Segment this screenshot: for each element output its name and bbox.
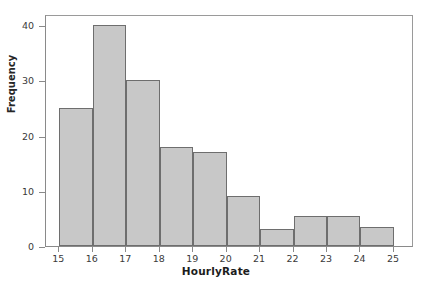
y-axis-tick-label: 0 bbox=[0, 242, 34, 252]
x-axis-tick-label: 23 bbox=[311, 253, 341, 264]
histogram-bar bbox=[160, 147, 193, 246]
x-axis-title: HourlyRate bbox=[0, 265, 432, 277]
x-axis-tick-label: 18 bbox=[144, 253, 174, 264]
x-axis-tick-label: 24 bbox=[344, 253, 374, 264]
x-axis-tick-label: 20 bbox=[211, 253, 241, 264]
histogram-bar bbox=[360, 227, 393, 246]
x-axis-tick bbox=[259, 247, 260, 252]
y-axis-tick-label: 20 bbox=[0, 132, 34, 142]
x-axis-tick bbox=[393, 247, 394, 252]
plot-area bbox=[45, 15, 413, 247]
histogram-bar bbox=[294, 216, 327, 246]
y-axis-tick-label: 40 bbox=[0, 21, 34, 31]
x-axis-tick bbox=[92, 247, 93, 252]
x-axis-tick-label: 19 bbox=[177, 253, 207, 264]
histogram-bar bbox=[93, 25, 126, 246]
x-axis-tick bbox=[359, 247, 360, 252]
x-axis-tick-label: 22 bbox=[278, 253, 308, 264]
histogram-bar bbox=[59, 108, 92, 246]
histogram-bar bbox=[327, 216, 360, 246]
x-axis-tick bbox=[226, 247, 227, 252]
y-axis-tick bbox=[39, 247, 45, 248]
x-axis-tick bbox=[326, 247, 327, 252]
x-axis-tick bbox=[58, 247, 59, 252]
x-axis-tick-label: 16 bbox=[77, 253, 107, 264]
x-axis-tick-label: 17 bbox=[110, 253, 140, 264]
x-axis-tick bbox=[125, 247, 126, 252]
y-axis-tick-label: 30 bbox=[0, 76, 34, 86]
bars-container bbox=[46, 16, 412, 246]
histogram-bar bbox=[260, 229, 293, 246]
histogram-bar bbox=[193, 152, 226, 246]
histogram-bar bbox=[227, 196, 260, 246]
histogram-chart: Frequency 010203040 15161718192021222324… bbox=[0, 0, 432, 283]
x-axis-tick bbox=[293, 247, 294, 252]
chart-title-remnant bbox=[0, 0, 432, 4]
x-axis-tick-label: 25 bbox=[378, 253, 408, 264]
y-axis-tick-label: 10 bbox=[0, 187, 34, 197]
x-axis-tick bbox=[159, 247, 160, 252]
x-axis-tick-label: 15 bbox=[43, 253, 73, 264]
x-axis-tick bbox=[192, 247, 193, 252]
histogram-bar bbox=[126, 80, 159, 246]
x-axis-tick-label: 21 bbox=[244, 253, 274, 264]
